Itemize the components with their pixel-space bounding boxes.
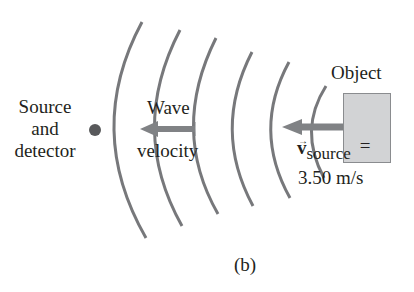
source-label-line-2: and	[6, 119, 84, 139]
velocity-vector-symbol: →v	[297, 137, 307, 158]
source-dot	[89, 124, 101, 136]
wave-label-line-2: velocity	[137, 141, 198, 161]
source-velocity-label: →vsource =	[297, 138, 366, 159]
source-label-line-1: Source	[6, 97, 84, 117]
wave-label-line-1: Wave	[147, 98, 190, 118]
wavefront-arc-5	[271, 62, 290, 198]
doppler-diagram: Source and detector Wave velocity Object…	[0, 0, 414, 292]
figure-panel-label: (b)	[234, 255, 256, 275]
wavefront-arc-4	[232, 52, 253, 206]
wavefront-arc-6	[311, 86, 326, 178]
equals-sign: =	[360, 135, 371, 156]
wave-velocity-arrow	[140, 121, 195, 137]
source-velocity-value: 3.50 m/s	[298, 168, 363, 188]
source-detector-label: Source and detector	[6, 97, 84, 161]
source-label-line-3: detector	[6, 141, 84, 161]
wavefront-arc-1	[114, 22, 146, 238]
object-label: Object	[331, 63, 382, 83]
wavefront-arc-3	[193, 38, 218, 214]
velocity-subscript: source	[307, 144, 351, 163]
